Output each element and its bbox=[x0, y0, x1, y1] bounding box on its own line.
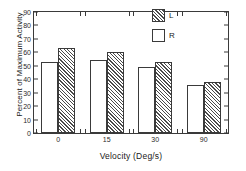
x-tick-label: 0 bbox=[56, 136, 60, 144]
x-tick-mark-top bbox=[133, 12, 134, 16]
bar-r-15 bbox=[90, 60, 107, 133]
y-tick-label: 30 bbox=[23, 89, 31, 96]
y-tick-label: 60 bbox=[23, 49, 31, 56]
x-tick-label: 90 bbox=[200, 136, 208, 144]
bar-l-0 bbox=[58, 48, 75, 133]
bar-l-90 bbox=[204, 82, 221, 133]
y-tick-label: 0 bbox=[27, 130, 31, 137]
y-tick-label: 80 bbox=[23, 22, 31, 29]
legend-label-l: L bbox=[169, 11, 173, 20]
chart-legend: LR bbox=[152, 9, 198, 49]
legend-label-r: R bbox=[169, 31, 175, 40]
y-tick-label: 50 bbox=[23, 62, 31, 69]
legend-swatch-l bbox=[152, 9, 165, 22]
x-tick-mark-top bbox=[226, 12, 227, 16]
bar-r-0 bbox=[41, 62, 58, 133]
x-tick-mark bbox=[226, 129, 227, 133]
x-tick-mark bbox=[36, 129, 37, 133]
x-tick-mark bbox=[85, 129, 86, 133]
x-tick-mark bbox=[182, 129, 183, 133]
y-tick-label: 10 bbox=[23, 116, 31, 123]
plot-area: 0102030405060708090 0153090 bbox=[33, 11, 229, 134]
y-tick-label: 70 bbox=[23, 35, 31, 42]
x-tick-mark-top bbox=[36, 12, 37, 16]
x-axis-label: Velocity (Deg/s) bbox=[33, 151, 229, 161]
bar-l-15 bbox=[107, 52, 124, 133]
legend-swatch-r bbox=[152, 29, 165, 42]
bar-r-30 bbox=[138, 67, 155, 133]
legend-item-l: L bbox=[152, 9, 198, 22]
y-tick-label: 90 bbox=[23, 9, 31, 16]
x-tick-mark-top bbox=[85, 12, 86, 16]
x-tick-mark bbox=[129, 129, 130, 133]
x-tick-mark-top bbox=[80, 12, 81, 16]
x-tick-label: 15 bbox=[103, 136, 111, 144]
bar-l-30 bbox=[155, 62, 172, 133]
x-tick-mark bbox=[177, 129, 178, 133]
bar-chart-figure: Percent of Maximum Activity 010203040506… bbox=[0, 0, 246, 171]
bars-group bbox=[34, 12, 228, 133]
y-tick-label: 40 bbox=[23, 76, 31, 83]
bar-r-90 bbox=[187, 85, 204, 133]
x-tick-mark bbox=[80, 129, 81, 133]
legend-item-r: R bbox=[152, 29, 198, 42]
x-tick-mark bbox=[133, 129, 134, 133]
x-tick-label: 30 bbox=[151, 136, 159, 144]
y-axis-label: Percent of Maximum Activity bbox=[15, 0, 24, 130]
y-tick-label: 20 bbox=[23, 103, 31, 110]
x-tick-mark-top bbox=[129, 12, 130, 16]
